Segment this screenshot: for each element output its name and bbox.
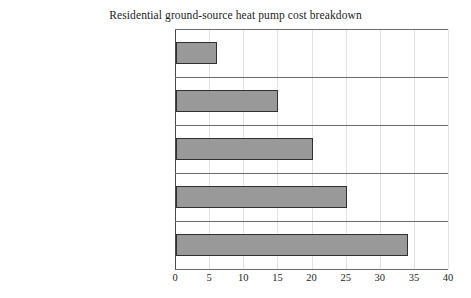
x-tick-label: 15 (262, 272, 292, 284)
x-tick-label: 10 (228, 272, 258, 284)
gridline-vertical (448, 29, 449, 269)
plot-frame-line (175, 269, 448, 270)
plot-area (175, 29, 448, 269)
x-tick-label: 40 (433, 272, 463, 284)
x-tick-label: 0 (160, 272, 190, 284)
bar-row (175, 125, 448, 173)
bar-row (175, 221, 448, 269)
x-tick-label: 30 (365, 272, 395, 284)
bar[interactable] (176, 234, 408, 256)
bar-row (175, 77, 448, 125)
bar[interactable] (176, 90, 278, 112)
bar-chart: Residential ground-source heat pump cost… (0, 0, 471, 298)
x-tick-label: 5 (194, 272, 224, 284)
bar[interactable] (176, 138, 313, 160)
x-tick-label: 20 (297, 272, 327, 284)
bar-row (175, 29, 448, 77)
bar[interactable] (176, 186, 347, 208)
bar-row (175, 173, 448, 221)
x-tick-label: 25 (331, 272, 361, 284)
chart-title: Residential ground-source heat pump cost… (0, 8, 471, 22)
x-tick-label: 35 (399, 272, 429, 284)
bar[interactable] (176, 42, 217, 64)
